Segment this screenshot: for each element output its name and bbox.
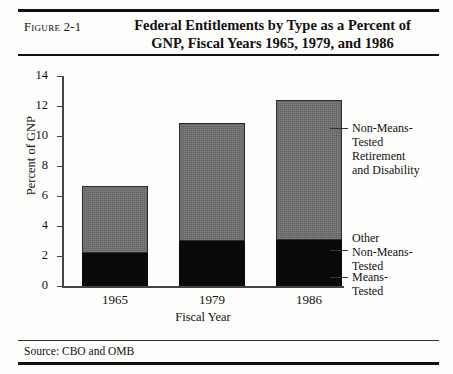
x-tick-label-1979: 1979 <box>199 292 225 308</box>
figure-container: Figure 2-1 Federal Entitlements by Type … <box>0 0 453 374</box>
legend-label-line: Other <box>352 231 413 245</box>
y-tick: 2 <box>57 256 63 257</box>
legend-label-line: Retirement <box>352 149 420 163</box>
bottom-rule <box>18 362 439 365</box>
figure-title-line-2: GNP, Fiscal Years 1965, 1979, and 1986 <box>110 34 435 52</box>
legend-label-line: Means- <box>352 270 388 284</box>
bar-segment-means-tested <box>179 241 245 286</box>
title-bottom-rule <box>18 54 439 56</box>
figure-title: Federal Entitlements by Type as a Percen… <box>110 16 435 52</box>
top-rule <box>18 9 439 12</box>
bar-segment-non-means-tested <box>179 123 245 241</box>
y-tick-label: 4 <box>42 218 48 233</box>
y-tick: 0 <box>57 286 63 287</box>
y-tick-label: 10 <box>36 128 49 143</box>
x-tick-label-1965: 1965 <box>102 292 128 308</box>
legend-label-line: and Disability <box>352 163 420 177</box>
legend-label-line: Tested <box>352 135 420 149</box>
y-axis-line <box>62 76 64 286</box>
legend-label-3: Means-Tested <box>352 270 388 298</box>
bar-segment-non-means-tested <box>82 186 148 253</box>
y-tick-label: 14 <box>36 68 49 83</box>
legend-leader-line <box>330 250 348 251</box>
bar-segment-means-tested <box>276 240 342 286</box>
legend-label-line: Tested <box>352 284 388 298</box>
x-axis-label: Fiscal Year <box>175 310 231 325</box>
bar-segment-non-means-tested <box>276 100 342 240</box>
bar-1965 <box>82 186 148 286</box>
y-tick-label: 8 <box>42 158 48 173</box>
y-tick-label: 6 <box>42 188 48 203</box>
source-top-rule <box>18 340 439 341</box>
y-tick-label: 2 <box>42 248 48 263</box>
bar-segment-means-tested <box>82 253 148 286</box>
legend-label-1: Non-Means-TestedRetirementand Disability <box>352 121 420 178</box>
y-tick-label: 0 <box>42 278 48 293</box>
legend-label-line: Non-Means- <box>352 121 420 135</box>
x-axis-line <box>62 286 344 288</box>
plot-area: 02468101214 196519791986 Fiscal Year <box>62 76 344 286</box>
legend-label-2: OtherNon-Means-Tested <box>352 231 413 273</box>
y-tick: 6 <box>57 196 63 197</box>
figure-title-line-1: Federal Entitlements by Type as a Percen… <box>134 17 411 33</box>
y-tick-label: 12 <box>36 98 49 113</box>
y-tick: 12 <box>57 106 63 107</box>
y-tick: 4 <box>57 226 63 227</box>
source-note: Source: CBO and OMB <box>24 345 134 357</box>
x-tick-label-1986: 1986 <box>296 292 322 308</box>
y-tick: 8 <box>57 166 63 167</box>
legend-leader-line <box>330 277 348 278</box>
y-tick: 14 <box>57 76 63 77</box>
legend-label-line: Non-Means- <box>352 245 413 259</box>
legend-leader-line <box>330 128 348 129</box>
bar-1979 <box>179 123 245 286</box>
y-tick: 10 <box>57 136 63 137</box>
figure-number: Figure 2-1 <box>24 20 81 35</box>
